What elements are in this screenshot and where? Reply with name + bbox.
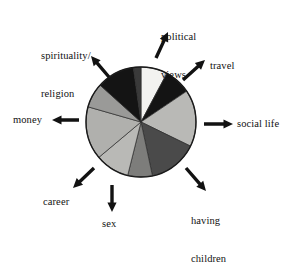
- label-travel: travel: [210, 60, 235, 72]
- label-having-children-line2: children: [191, 253, 226, 266]
- arrow-career: [73, 167, 95, 188]
- label-sex: sex: [102, 218, 116, 230]
- label-having-children: having children: [191, 190, 226, 266]
- label-political-views: political views: [161, 6, 196, 106]
- label-spirituality-religion: spirituality/ religion: [41, 25, 91, 125]
- arrow-spirituality: [91, 56, 110, 78]
- label-social-life: social life: [237, 118, 279, 130]
- arrow-sex: [107, 185, 116, 212]
- label-spirituality-line1: spirituality/: [41, 50, 91, 63]
- label-money: money: [13, 114, 42, 126]
- arrow-social-life: [204, 119, 233, 128]
- label-spirituality-line2: religion: [41, 88, 91, 101]
- arrow-having-children: [185, 167, 206, 191]
- label-having-children-line1: having: [191, 215, 226, 228]
- label-political-views-line2: views: [161, 69, 196, 82]
- label-political-views-line1: political: [161, 31, 196, 44]
- label-career: career: [43, 196, 69, 208]
